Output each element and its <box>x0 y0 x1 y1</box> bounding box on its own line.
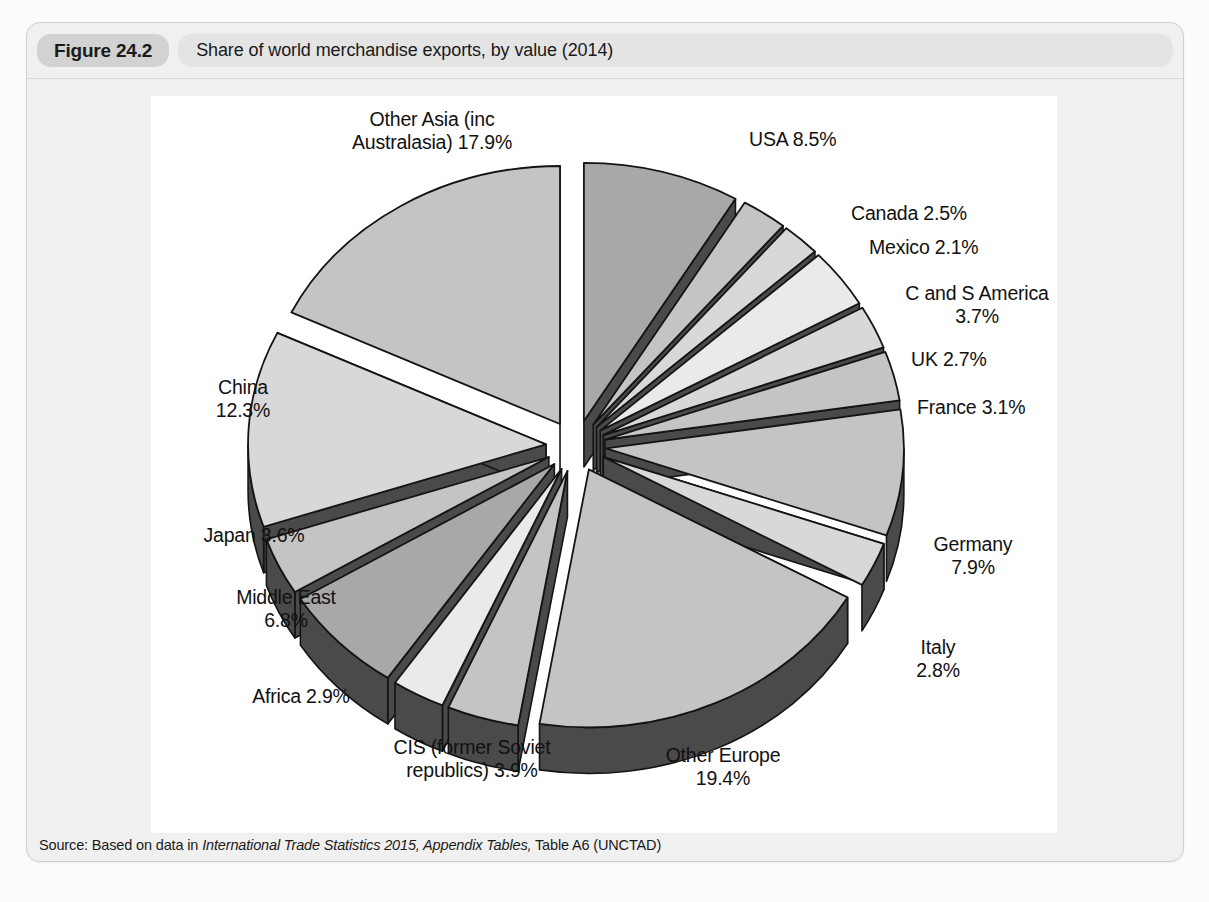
pie-label-uk: UK 2.7% <box>911 348 1061 371</box>
figure-source-note: Source: Based on data in International T… <box>39 837 1171 853</box>
pie-label-other-europe: Other Europe 19.4% <box>613 744 833 790</box>
pie-label-cis: CIS (former Soviet republics) 3.9% <box>347 736 597 782</box>
pie-label-other-asia: Other Asia (inc Australasia) 17.9% <box>307 108 557 154</box>
pie-chart-canvas: Other Asia (inc Australasia) 17.9%USA 8.… <box>151 96 1057 833</box>
pie-label-china: China 12.3% <box>163 376 323 422</box>
figure-body: Other Asia (inc Australasia) 17.9%USA 8.… <box>27 80 1183 841</box>
pie-label-mexico: Mexico 2.1% <box>869 236 1059 259</box>
pie-label-africa: Africa 2.9% <box>211 685 391 708</box>
figure-title: Share of world merchandise exports, by v… <box>178 34 1173 67</box>
page-background: Figure 24.2 Share of world merchandise e… <box>0 0 1209 902</box>
figure-panel: Figure 24.2 Share of world merchandise e… <box>26 22 1184 862</box>
source-title-italic: International Trade Statistics 2015, App… <box>202 837 531 853</box>
pie-label-canada: Canada 2.5% <box>851 202 1041 225</box>
pie-label-japan: Japan 3.6% <box>159 524 349 547</box>
pie-label-italy: Italy 2.8% <box>873 636 1003 682</box>
pie-slice-tops <box>248 163 904 774</box>
figure-number-badge: Figure 24.2 <box>37 34 169 67</box>
figure-header: Figure 24.2 Share of world merchandise e… <box>27 23 1183 79</box>
pie-label-germany: Germany 7.9% <box>893 533 1053 579</box>
pie-label-c-and-s: C and S America 3.7% <box>877 282 1077 328</box>
source-prefix: Source: Based on data in <box>39 837 202 853</box>
pie-label-middle-east: Middle East 6.8% <box>191 586 381 632</box>
pie-label-usa: USA 8.5% <box>749 128 929 151</box>
source-suffix: Table A6 (UNCTAD) <box>531 837 661 853</box>
pie-label-france: France 3.1% <box>917 396 1087 419</box>
